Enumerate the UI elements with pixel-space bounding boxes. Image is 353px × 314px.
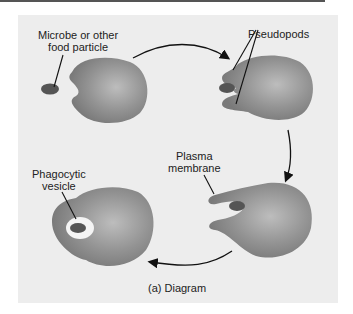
label-microbe: Microbe or other food particle: [38, 29, 118, 53]
food-particle: [219, 83, 235, 93]
label-vesicle-line1: Phagocytic: [32, 168, 86, 180]
stage-2-cell: [219, 30, 313, 120]
label-plasma-line2: membrane: [168, 162, 221, 174]
food-particle: [70, 223, 86, 233]
arrow-2: [286, 130, 291, 180]
label-phagocytic-vesicle: Phagocytic vesicle: [32, 168, 86, 192]
label-plasma-membrane: Plasma membrane: [168, 150, 221, 174]
stage-1-cell: [41, 55, 147, 123]
arrow-3: [150, 251, 232, 265]
figure-caption: (a) Diagram: [148, 282, 206, 294]
food-particle: [41, 84, 59, 95]
label-vesicle-line2: vesicle: [32, 180, 86, 192]
label-pseudopods: Pseudopods: [248, 28, 309, 40]
label-microbe-line2: food particle: [38, 41, 118, 53]
arrow-1: [133, 45, 228, 59]
label-plasma-line1: Plasma: [168, 150, 221, 162]
food-particle: [229, 201, 245, 211]
stage-4-cell: [52, 187, 154, 266]
label-microbe-line1: Microbe or other: [38, 29, 118, 41]
stage-3-cell: [204, 175, 312, 258]
